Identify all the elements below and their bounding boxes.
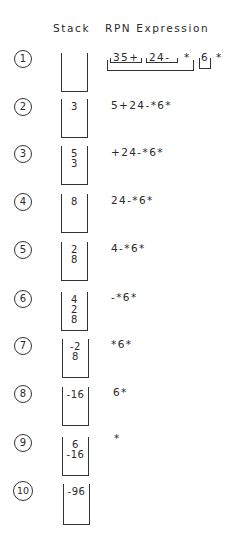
- stack-box: [61, 53, 88, 92]
- rpn-expression: -*6*: [111, 291, 138, 303]
- stack-box: -96: [63, 484, 90, 525]
- rpn-expression: *6*: [111, 338, 132, 350]
- multiply-operator: *: [216, 51, 223, 63]
- stack-box: -16: [62, 387, 89, 426]
- stack-box: 3: [61, 99, 88, 138]
- step-row-2: 2 3 5+24-*6*: [0, 98, 235, 146]
- rpn-expression: 6*: [113, 386, 128, 398]
- step-number-circle: 1: [14, 50, 32, 68]
- stack-value: 3: [62, 102, 87, 112]
- rpn-column-header: RPN Expression: [105, 22, 209, 34]
- rpn-expression: 5+24-*6*: [111, 99, 172, 111]
- step-row-9: 9 6 -16 *: [0, 434, 235, 482]
- outer-bracket: [107, 60, 194, 71]
- stack-box: 2 8: [61, 242, 88, 281]
- small-bracket: [199, 58, 211, 69]
- step-row-1: 1 35+ 24- * 6 *: [0, 50, 235, 98]
- stack-box: 8: [61, 194, 88, 233]
- stack-value: -16: [63, 390, 88, 400]
- stack-value: -16: [63, 450, 88, 460]
- step-number-circle: 6: [14, 290, 32, 308]
- stack-box: 4 2 8: [61, 292, 88, 331]
- step-number-circle: 3: [14, 145, 32, 163]
- stack-box: -2 8: [62, 339, 89, 378]
- step-number-circle: 10: [13, 481, 33, 501]
- stack-value: 3: [62, 159, 87, 169]
- step-number-circle: 4: [14, 193, 32, 211]
- stack-value: 8: [62, 197, 87, 207]
- step-number-circle: 2: [14, 98, 32, 116]
- step-row-4: 4 8 24-*6*: [0, 193, 235, 241]
- rpn-expression: 24-*6*: [111, 194, 154, 206]
- rpn-expression: 4-*6*: [111, 242, 146, 254]
- rpn-expression: *: [114, 432, 121, 444]
- stack-value: -96: [64, 487, 89, 497]
- step-row-3: 3 5 3 +24-*6*: [0, 145, 235, 193]
- step-number-circle: 8: [14, 385, 32, 403]
- step-number-circle: 9: [14, 434, 32, 452]
- step-row-8: 8 -16 6*: [0, 385, 235, 433]
- rpn-expression: +24-*6*: [111, 146, 164, 158]
- stack-box: 6 -16: [62, 437, 89, 476]
- stack-column-header: Stack: [53, 22, 90, 34]
- step-row-7: 7 -2 8 *6*: [0, 337, 235, 385]
- stack-box: 5 3: [61, 146, 88, 185]
- step-number-circle: 5: [14, 241, 32, 259]
- stack-value: 8: [63, 352, 88, 362]
- stack-value: 8: [62, 315, 87, 325]
- step-row-10: 10 -96: [0, 481, 235, 529]
- step-row-5: 5 2 8 4-*6*: [0, 241, 235, 289]
- stack-value: 8: [62, 255, 87, 265]
- step-row-6: 6 4 2 8 -*6*: [0, 290, 235, 338]
- step-number-circle: 7: [14, 337, 32, 355]
